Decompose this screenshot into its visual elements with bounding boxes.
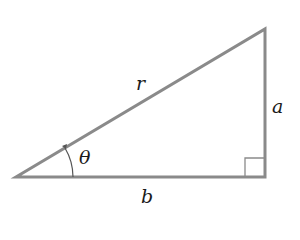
angle-arc bbox=[65, 148, 73, 177]
triangle bbox=[16, 29, 265, 177]
label-angle: θ bbox=[79, 148, 90, 167]
label-adjacent: b bbox=[141, 187, 153, 206]
label-hypotenuse: r bbox=[136, 74, 145, 93]
label-opposite: a bbox=[272, 97, 283, 116]
right-angle-marker bbox=[245, 158, 265, 177]
